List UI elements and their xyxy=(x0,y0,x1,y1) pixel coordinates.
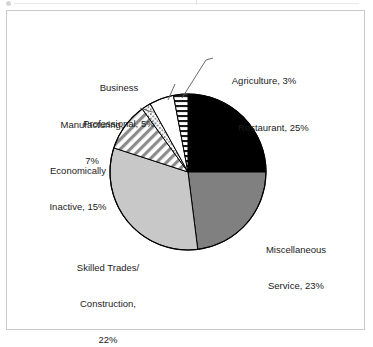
slice-label-skilled-trades-construction: Skilled Trades/ Construction, 22% xyxy=(56,238,160,347)
slice-label-manufacturing-line1: Manufacturing, xyxy=(46,119,138,131)
slice-label-skilled-trades-line2: Construction, xyxy=(56,298,160,310)
slice-label-miscellaneous-service-line2: Service, 23% xyxy=(244,280,348,292)
slice-label-economically-inactive: Economically Inactive, 15% xyxy=(32,141,124,237)
slice-label-restaurant: Restaurant, 25% xyxy=(238,98,358,158)
slice-label-skilled-trades-line1: Skilled Trades/ xyxy=(56,262,160,274)
slice-label-economically-inactive-line1: Economically xyxy=(32,165,124,177)
leader-line-agriculture xyxy=(182,58,213,98)
slice-label-agriculture-line1: Agriculture, 3% xyxy=(214,75,314,87)
slice-label-restaurant-line1: Restaurant, 25% xyxy=(238,122,358,134)
slice-label-economically-inactive-line2: Inactive, 15% xyxy=(32,201,124,213)
slice-label-miscellaneous-service-line1: Miscellaneous xyxy=(244,244,348,256)
slice-label-skilled-trades-line3: 22% xyxy=(56,334,160,346)
slice-label-miscellaneous-service: Miscellaneous Service, 23% xyxy=(244,220,348,316)
slice-label-business-professional-line1: Business xyxy=(62,82,176,94)
